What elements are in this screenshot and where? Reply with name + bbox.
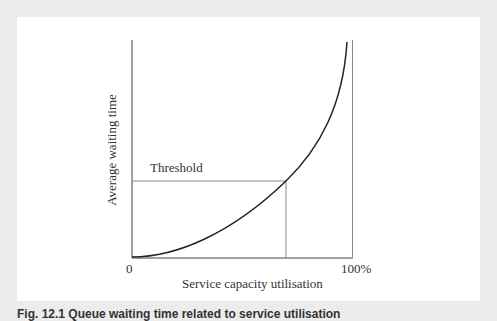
waiting-time-curve: [132, 42, 347, 257]
y-axis-label: Average waiting time: [104, 94, 120, 206]
x-max-label: 100%: [341, 261, 371, 277]
x-axis-label: Service capacity utilisation: [182, 276, 323, 292]
x-min-label: 0: [126, 261, 133, 277]
threshold-label: Threshold: [150, 160, 203, 176]
figure-caption: Fig. 12.1 Queue waiting time related to …: [17, 307, 340, 321]
